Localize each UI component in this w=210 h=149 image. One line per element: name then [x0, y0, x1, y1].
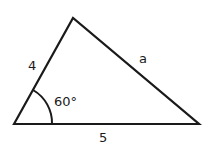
- triangle-diagram: 4 a 5 60°: [0, 0, 210, 149]
- side-base-label: 5: [99, 130, 107, 145]
- angle-arc: [33, 90, 52, 124]
- angle-label: 60°: [54, 94, 77, 109]
- side-left-label: 4: [28, 58, 36, 73]
- triangle: [14, 18, 199, 124]
- side-right-label: a: [139, 51, 147, 66]
